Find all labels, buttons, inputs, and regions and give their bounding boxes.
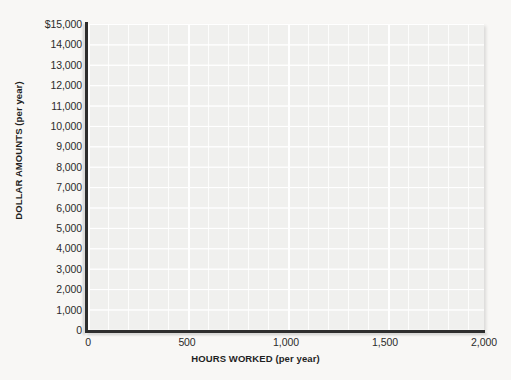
plot-area [88,24,484,330]
x-axis-shadow [87,333,487,335]
y-tick-label: 1,000 [2,304,82,316]
y-tick-label: 14,000 [2,38,82,50]
x-tick-label: 2,000 [471,336,497,348]
x-tick-label: 500 [178,336,195,348]
x-tick-label: 1,000 [273,336,299,348]
y-tick-label: 0 [2,324,82,336]
x-axis-title: HOURS WORKED (per year) [0,353,511,364]
y-tick-label: 2,000 [2,283,82,295]
y-tick-label: 4,000 [2,242,82,254]
chart-container: $15,00014,00013,00012,00011,00010,0009,0… [0,0,511,380]
y-tick-label: 13,000 [2,59,82,71]
major-gridlines [88,24,484,330]
x-tick-label: 1,500 [372,336,398,348]
x-tick-label: 0 [85,336,91,348]
y-tick-label: $15,000 [2,18,82,30]
x-axis-line [85,330,485,333]
y-axis-line [85,22,88,333]
y-tick-label: 3,000 [2,263,82,275]
y-axis-title: DOLLAR AMOUNTS (per year) [13,71,24,231]
